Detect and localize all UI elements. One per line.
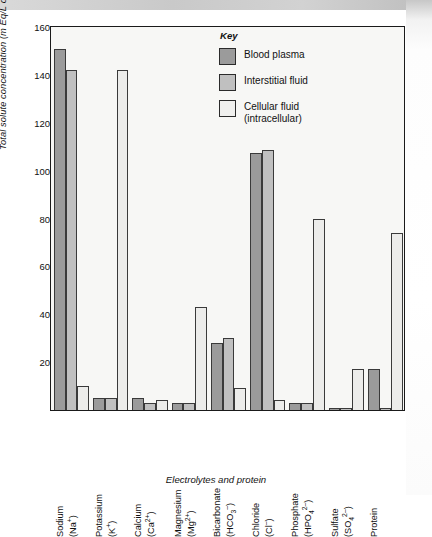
bar <box>77 386 89 410</box>
bar <box>352 369 364 410</box>
bar-group <box>54 27 89 410</box>
bar <box>262 150 274 410</box>
legend-label: Blood plasma <box>244 48 305 61</box>
bar <box>289 403 301 410</box>
bar <box>234 388 246 410</box>
legend-item: Blood plasma <box>219 48 389 65</box>
legend: Key Blood plasmaInterstitial fluidCellul… <box>219 30 389 133</box>
bar-group <box>132 27 167 410</box>
bar <box>223 338 235 410</box>
legend-title: Key <box>220 30 389 41</box>
bar <box>156 400 168 410</box>
y-tick-160: 160 <box>0 22 50 33</box>
bar <box>301 403 313 410</box>
y-tick-40: 40 <box>0 309 50 320</box>
bar-group <box>93 27 128 410</box>
bar <box>144 403 156 410</box>
bar <box>132 398 144 410</box>
bar <box>329 408 341 410</box>
bar <box>380 408 392 410</box>
legend-swatch <box>219 100 236 117</box>
x-axis-title: Electrolytes and protein <box>0 474 432 485</box>
bar <box>66 70 78 410</box>
bar <box>195 307 207 410</box>
bar <box>250 153 262 410</box>
legend-swatch <box>219 74 236 91</box>
bar <box>340 408 352 410</box>
bar <box>105 398 117 410</box>
legend-label: Cellular fluid(intracellular) <box>244 100 302 124</box>
legend-item: Cellular fluid(intracellular) <box>219 100 389 124</box>
legend-items: Blood plasmaInterstitial fluidCellular f… <box>219 48 389 124</box>
bar <box>54 49 66 410</box>
bar <box>93 398 105 410</box>
legend-item: Interstitial fluid <box>219 74 389 91</box>
y-tick-120: 120 <box>0 117 50 128</box>
y-tick-140: 140 <box>0 69 50 80</box>
legend-swatch <box>219 48 236 65</box>
bar <box>183 403 195 410</box>
y-tick-80: 80 <box>0 213 50 224</box>
bar <box>391 233 403 410</box>
y-tick-60: 60 <box>0 261 50 272</box>
bar <box>368 369 380 410</box>
bar <box>274 400 286 410</box>
bar <box>172 403 184 410</box>
y-tick-100: 100 <box>0 165 50 176</box>
bar <box>211 343 223 410</box>
bar <box>117 70 129 410</box>
bar-group <box>172 27 207 410</box>
bar <box>313 219 325 411</box>
y-tick-20: 20 <box>0 357 50 368</box>
legend-label: Interstitial fluid <box>244 74 308 87</box>
